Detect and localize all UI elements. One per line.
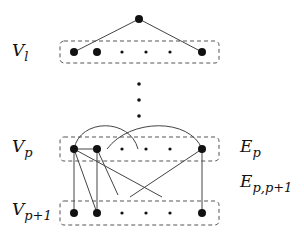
- label-e-p: Ep: [240, 138, 261, 159]
- layer-vp1-nodes: [70, 209, 206, 217]
- layer-box-vp1: [60, 201, 219, 225]
- inter-layer-edges-epp1: [74, 149, 202, 213]
- label-main: E: [240, 136, 252, 156]
- label-main: V: [12, 136, 24, 156]
- label-sub: p: [252, 145, 260, 160]
- layer-box-vl: [60, 41, 219, 63]
- label-e-p-p-plus-1: Ep,p+1: [240, 173, 292, 194]
- label-sub: l: [24, 49, 28, 64]
- label-v-p: Vp: [12, 138, 33, 159]
- layer-vl-nodes: [70, 48, 206, 56]
- label-v-p-plus-1: Vp+1: [12, 201, 52, 222]
- label-sub: p: [24, 145, 32, 160]
- top-node: [135, 15, 143, 23]
- label-sub: p,p+1: [252, 180, 292, 195]
- label-sub: p+1: [24, 208, 52, 223]
- label-main: V: [12, 199, 24, 219]
- label-main: E: [240, 171, 252, 191]
- vertical-ellipsis: [137, 82, 141, 118]
- label-main: V: [12, 40, 24, 60]
- label-v-l: Vl: [12, 42, 28, 63]
- top-edges: [74, 19, 202, 52]
